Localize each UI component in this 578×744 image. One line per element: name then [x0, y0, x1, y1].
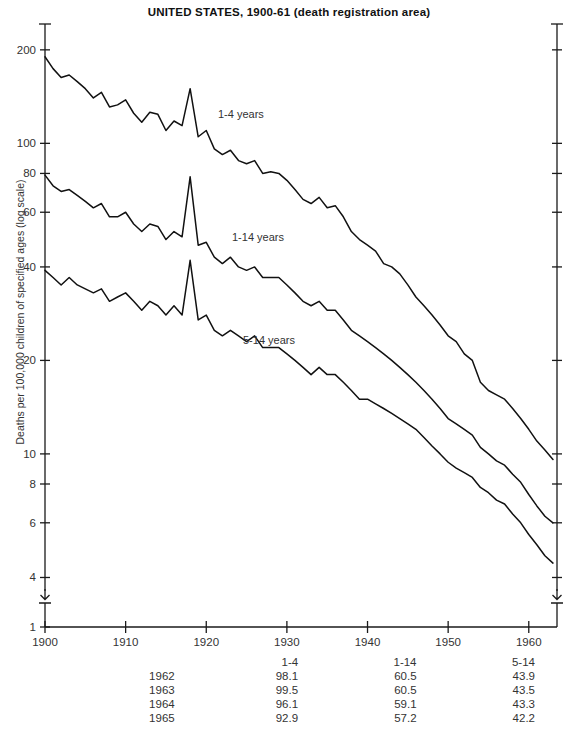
table-cell-1-14: 59.1: [341, 697, 459, 711]
y-tick-label-1: 1: [30, 621, 36, 633]
series-lines: [45, 57, 553, 563]
x-tick-label-1940: 1940: [355, 636, 381, 648]
table-cell-5-14: 42.2: [460, 711, 578, 725]
y-tick-label-4: 4: [30, 571, 37, 583]
table-cell-1-14: 57.2: [341, 711, 459, 725]
series-label-5-14-years: 5-14 years: [243, 334, 295, 346]
recent-years-table: 1-4 1-14 5-14 196298.160.543.9196399.560…: [0, 655, 578, 725]
x-tick-label-1950: 1950: [435, 636, 461, 648]
table-row: 196399.560.543.5: [0, 683, 578, 697]
table-body: 196298.160.543.9196399.560.543.5196496.1…: [0, 669, 578, 725]
table-row-year: 1965: [0, 711, 223, 725]
table-row-year: 1962: [0, 669, 223, 683]
table-row: 196298.160.543.9: [0, 669, 578, 683]
series-annotations: 1-4 years1-14 years5-14 years: [218, 108, 295, 346]
table-cell-1-14: 60.5: [341, 683, 459, 697]
x-tick-label-1920: 1920: [193, 636, 219, 648]
table-cell-1-4: 99.5: [223, 683, 341, 697]
y-tick-label-6: 6: [30, 517, 36, 529]
series-line-1-14-years: [45, 175, 553, 523]
axes-group: [39, 24, 563, 627]
table-col-header-5-14: 5-14: [460, 655, 578, 669]
table-cell-5-14: 43.5: [460, 683, 578, 697]
table-row-year: 1963: [0, 683, 223, 697]
table-row-year: 1964: [0, 697, 223, 711]
y-tick-label-200: 200: [17, 44, 36, 56]
table-head: 1-4 1-14 5-14: [0, 655, 578, 669]
table-cell-1-4: 92.9: [223, 711, 341, 725]
table-col-header-1-14: 1-14: [341, 655, 459, 669]
series-line-5-14-years: [45, 260, 553, 563]
chart-page: UNITED STATES, 1900-61 (death registrati…: [0, 0, 578, 744]
y-tick-label-20: 20: [23, 354, 36, 366]
series-line-1-4-years: [45, 57, 553, 460]
x-axis-ticks: 1900191019201930194019501960: [32, 621, 541, 648]
y-tick-label-8: 8: [30, 478, 36, 490]
table-cell-1-4: 96.1: [223, 697, 341, 711]
table-header-row: 1-4 1-14 5-14: [0, 655, 578, 669]
table-col-header-1-4: 1-4: [223, 655, 341, 669]
table-cell-1-4: 98.1: [223, 669, 341, 683]
y-tick-label-100: 100: [17, 137, 36, 149]
y-tick-label-60: 60: [23, 206, 36, 218]
y-tick-label-10: 10: [23, 448, 36, 460]
x-tick-label-1960: 1960: [516, 636, 542, 648]
y-tick-label-80: 80: [23, 167, 36, 179]
table-corner-cell: [0, 655, 223, 669]
series-label-1-14-years: 1-14 years: [232, 231, 284, 243]
x-tick-label-1930: 1930: [274, 636, 300, 648]
series-label-1-4-years: 1-4 years: [218, 108, 264, 120]
table-row: 196592.957.242.2: [0, 711, 578, 725]
table-row: 196496.159.143.3: [0, 697, 578, 711]
table-cell-5-14: 43.9: [460, 669, 578, 683]
y-axis-break-right: [551, 589, 563, 627]
y-tick-label-40: 40: [23, 261, 36, 273]
x-tick-label-1900: 1900: [32, 636, 58, 648]
table-cell-1-14: 60.5: [341, 669, 459, 683]
table-cell-5-14: 43.3: [460, 697, 578, 711]
x-tick-label-1910: 1910: [113, 636, 139, 648]
line-chart-plot: 20010080604020108641 1900191019201930194…: [0, 0, 578, 655]
